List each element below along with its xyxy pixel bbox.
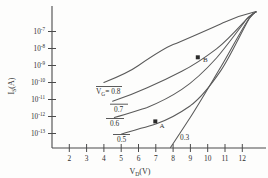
y-axis-title-unit: (A) <box>7 77 16 88</box>
x-axis-title: VD(V) <box>130 167 151 177</box>
x-tick-label: 10 <box>204 154 212 163</box>
curve-vg-0-6 <box>114 12 256 118</box>
curve-label-vg-0-8: VG= 0.8 <box>96 87 121 97</box>
y-axis-title: IS(A) <box>7 77 17 94</box>
svg-text:10-7: 10-7 <box>34 26 46 36</box>
y-tick-label-exp: -8 <box>41 43 46 49</box>
y-tick-label-exp: -9 <box>41 60 46 66</box>
y-tick-label-exp: -12 <box>38 111 45 117</box>
curve-vg-0-3 <box>171 12 257 148</box>
x-tick-label: 12 <box>239 154 247 163</box>
x-tick-label: 5 <box>119 154 123 163</box>
point-marker-b <box>196 55 200 59</box>
curve-label-vg-0-3: 0.3 <box>180 133 190 142</box>
y-tick-labels: 10-7 10-8 10-9 10-10 10-11 10-12 10-13 <box>31 26 45 138</box>
x-tick-label: 7 <box>154 154 158 163</box>
plot-canvas: 10-7 10-8 10-9 10-10 10-11 10-12 10-13 <box>0 0 268 178</box>
chart-figure: 10-7 10-8 10-9 10-10 10-11 10-12 10-13 <box>0 0 268 178</box>
svg-text:10-8: 10-8 <box>34 43 46 53</box>
annotations-group: A B <box>153 55 208 130</box>
curve-label-vg-0-7: 0.7 <box>114 105 124 114</box>
x-tick-label: 11 <box>221 154 228 163</box>
x-tick-label: 3 <box>85 154 89 163</box>
x-axis-title-unit: (V) <box>139 167 150 176</box>
point-label-a: A <box>160 122 165 130</box>
y-tick-label-exp: -13 <box>38 128 45 134</box>
svg-text:10-12: 10-12 <box>31 111 45 121</box>
curves-group <box>104 12 256 148</box>
curve-label-value: = 0.8 <box>105 87 121 96</box>
svg-text:10-13: 10-13 <box>31 128 45 138</box>
point-marker-a <box>153 119 157 123</box>
x-tick-label: 2 <box>67 154 71 163</box>
y-tick-label-exp: -11 <box>38 94 45 100</box>
x-tick-label: 8 <box>171 154 175 163</box>
x-tick-labels: 2 3 4 5 6 7 8 9 10 11 12 <box>67 154 246 163</box>
curve-label-vg-0-6: 0.6 <box>110 119 120 128</box>
point-label-b: B <box>203 56 208 64</box>
curve-label-vg-0-5: 0.5 <box>117 135 127 144</box>
svg-text:10-11: 10-11 <box>31 94 45 104</box>
x-tick-label: 9 <box>189 154 193 163</box>
svg-text:10-9: 10-9 <box>34 60 46 70</box>
y-tick-label-exp: -10 <box>38 77 45 83</box>
x-tick-label: 6 <box>137 154 141 163</box>
y-tick-label-exp: -7 <box>41 26 46 32</box>
x-tick-label: 4 <box>102 154 106 163</box>
svg-text:10-10: 10-10 <box>31 77 45 87</box>
